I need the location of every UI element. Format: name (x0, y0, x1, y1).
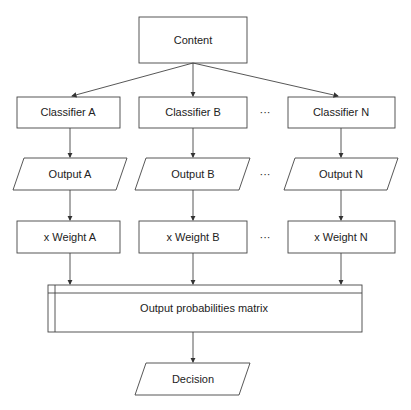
flowchart: Content Classifier A Classifier B Classi… (0, 0, 411, 410)
weight-b-label: x Weight B (167, 231, 220, 243)
ellipsis-2: ··· (260, 168, 271, 180)
output-a-label: Output A (49, 168, 92, 180)
output-b-label: Output B (171, 168, 214, 180)
weight-a-label: x Weight A (44, 231, 97, 243)
content-label: Content (174, 34, 213, 46)
matrix-label: Output probabilities matrix (140, 302, 268, 314)
output-n-label: Output N (319, 168, 363, 180)
weight-n-label: x Weight N (314, 231, 368, 243)
ellipsis-1: ··· (260, 106, 271, 118)
classifier-b-label: Classifier B (165, 106, 221, 118)
decision-label: Decision (172, 373, 214, 385)
ellipsis-3: ··· (260, 231, 271, 243)
classifier-a-label: Classifier A (40, 106, 96, 118)
classifier-n-label: Classifier N (313, 106, 369, 118)
